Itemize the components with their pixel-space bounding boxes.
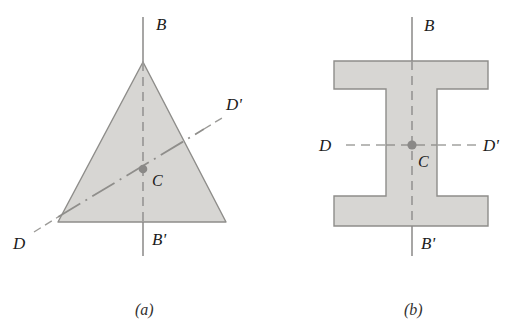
label-b-top-b: B — [424, 16, 435, 35]
panel-a-group: B B' D D' C (a) — [12, 15, 242, 319]
axis-d-line-a-outer-left — [34, 217, 58, 232]
centroid-dot-b — [407, 140, 416, 149]
label-b-bottom-b: B' — [421, 234, 435, 253]
technical-figure-svg: B B' D D' C (a) B B' D — [0, 0, 514, 331]
triangle-shape — [58, 62, 226, 222]
label-d-right-b: D' — [482, 136, 499, 155]
label-center-b: C — [418, 153, 429, 170]
caption-b: (b) — [404, 301, 423, 319]
label-d-right-a: D' — [225, 95, 242, 114]
label-b-top-a: B — [156, 15, 167, 34]
label-d-left-a: D — [12, 234, 26, 253]
centroid-dot-a — [139, 165, 148, 174]
label-center-a: C — [152, 172, 163, 189]
label-b-bottom-a: B' — [152, 230, 166, 249]
label-d-left-b: D — [318, 136, 332, 155]
figure-canvas: B B' D D' C (a) B B' D — [0, 0, 514, 331]
caption-a: (a) — [135, 301, 154, 319]
panel-b-group: B B' D D' C (b) — [318, 16, 499, 319]
axis-d-line-a-outer-right — [204, 118, 222, 129]
